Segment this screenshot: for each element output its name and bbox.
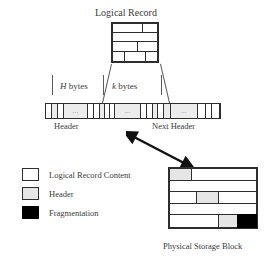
logical-record-title: Logical Record (95, 7, 157, 18)
legend-label-header: Header (49, 189, 74, 199)
ruler-tick-h-end (103, 75, 104, 95)
strip-content-cell (140, 104, 147, 118)
strip-content-cell (197, 104, 206, 118)
physical-header-cell (218, 214, 238, 228)
strip-content-cell (87, 104, 94, 118)
physical-content-cell (169, 214, 219, 228)
next-header-label: Next Header (152, 121, 195, 131)
strip-content-run: ... (63, 104, 88, 118)
record-bytes-symbol: k (112, 81, 116, 91)
legend-label-content: Logical Record Content (49, 170, 131, 180)
ellipsis-label: ... (73, 108, 79, 114)
header-label: Header (54, 121, 79, 131)
strip-tail-cell (211, 104, 220, 118)
strip-content-run: ... (170, 104, 198, 118)
header-bytes-label: H bytes (60, 81, 88, 91)
logical-record-brick (124, 51, 146, 62)
record-bytes-unit: bytes (118, 81, 137, 91)
logical-record-block (111, 22, 159, 63)
double-headed-mapping-arrow (126, 131, 198, 169)
strip-content-run: ... (114, 104, 141, 118)
physical-storage-block-caption: Physical Storage Block (163, 241, 242, 251)
ruler-tick-h-start (52, 75, 53, 95)
ellipsis-label: ... (181, 108, 187, 114)
ellipsis-label: ... (125, 108, 131, 114)
legend-label-fragmentation: Fragmentation (49, 208, 99, 218)
ruler-tick-k-end (161, 75, 162, 95)
storage-strip: ... ... ... (45, 103, 221, 119)
record-bytes-label: k bytes (112, 81, 137, 91)
legend-swatch-fragmentation (22, 206, 39, 219)
header-bytes-unit: bytes (69, 81, 88, 91)
legend-swatch-header (22, 187, 39, 200)
legend-swatch-content (22, 168, 39, 181)
physical-storage-block (168, 167, 258, 229)
logical-record-brick (145, 51, 158, 62)
physical-fragmentation-cell (237, 214, 257, 228)
diagram-canvas: Logical Record H bytes k bytes ... (0, 0, 266, 263)
header-bytes-symbol: H (60, 81, 67, 91)
